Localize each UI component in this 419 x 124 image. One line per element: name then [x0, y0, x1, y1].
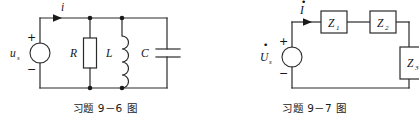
capacitor-branch: [156, 49, 180, 57]
voltage-source-left: [30, 43, 50, 63]
resistor-label: R: [69, 47, 77, 59]
capacitor-label: C: [141, 47, 149, 59]
current-arrowhead: [53, 14, 62, 22]
junction-dot-top-resistor: [88, 16, 93, 21]
circuit-diagram-9-7: + − U • s I • Z 1 Z 2: [210, 0, 419, 100]
current-arrow-left: [53, 14, 62, 22]
current-arrowhead: [303, 18, 312, 26]
current-label-i: i: [61, 1, 64, 13]
source-label-u: u: [10, 47, 16, 59]
impedance-1-subscript: 1: [336, 24, 340, 32]
source-label-subscript: s: [17, 54, 20, 62]
impedance-2-subscript: 2: [385, 24, 389, 32]
figure-panel-left: + − u s i R: [0, 0, 210, 124]
impedance-1: Z 1: [321, 11, 347, 33]
source-minus-sign: −: [27, 63, 36, 76]
resistor-body: [84, 38, 97, 68]
figure-panel-right: + − U • s I • Z 1 Z 2: [210, 0, 419, 124]
source-label-subscript: s: [269, 58, 272, 66]
impedance-1-label: Z: [328, 17, 335, 29]
inductor-coil: [122, 36, 129, 88]
source-minus-sign: −: [279, 67, 288, 80]
impedance-3-subscript: 3: [414, 64, 419, 72]
source-plus-sign: +: [27, 31, 36, 44]
source-label-u: U: [260, 51, 269, 63]
figure-caption-left: 习题 9－6 图: [0, 100, 218, 115]
source-circle: [282, 47, 302, 67]
source-label-phasor-dot: •: [263, 40, 268, 50]
impedance-2: Z 2: [370, 11, 396, 33]
resistor-branch: [84, 16, 97, 91]
junction-dot-bottom-inductor: [120, 86, 125, 91]
source-plus-sign: +: [279, 35, 288, 48]
impedance-2-label: Z: [377, 17, 384, 29]
current-label-phasor-dot: •: [301, 0, 306, 7]
source-circle: [30, 43, 50, 63]
junction-dot-top-inductor: [120, 16, 125, 21]
impedance-3-label: Z: [407, 57, 414, 69]
impedance-3: Z 3: [400, 47, 419, 79]
figure-sheet: + − u s i R: [0, 0, 419, 124]
junction-dot-bottom-resistor: [88, 86, 93, 91]
figure-caption-right: 习题 9－7 图: [210, 100, 419, 115]
inductor-branch: [120, 16, 129, 91]
circuit-diagram-9-6: + − u s i R: [0, 0, 210, 100]
inductor-label: L: [105, 47, 112, 59]
